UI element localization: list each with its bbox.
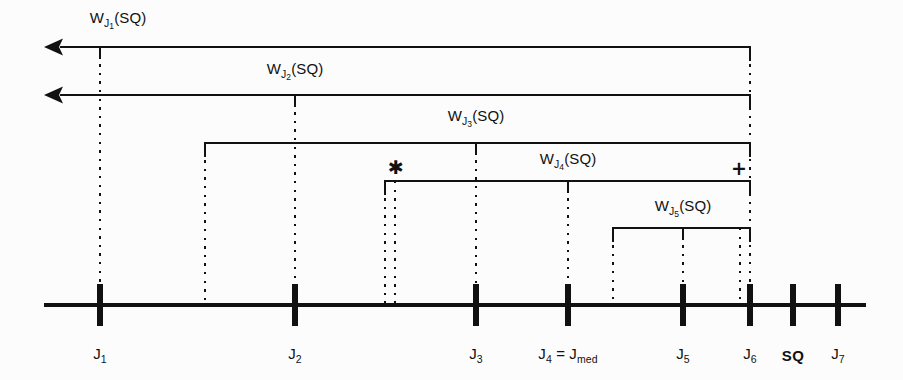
axis-label-main: J bbox=[469, 345, 477, 362]
axis-label-main: J bbox=[93, 345, 101, 362]
window-label-subscript: J5 bbox=[669, 205, 679, 217]
dotted-verticals-group bbox=[100, 47, 750, 305]
window-label-subscript: J2 bbox=[281, 68, 291, 80]
axis-label-subscript: 2 bbox=[296, 353, 302, 365]
diagram-vector-layer bbox=[0, 0, 903, 380]
window-label-w: W bbox=[655, 197, 669, 214]
window-label-w: W bbox=[540, 150, 554, 167]
axis-label-J4: J4 = Jmed bbox=[538, 345, 597, 365]
window-bracket-WJ2 bbox=[44, 87, 750, 110]
axis-label-J6: J6 bbox=[743, 345, 757, 365]
axis-label-subscript: 5 bbox=[684, 353, 690, 365]
axis-label-subscript: 1 bbox=[101, 353, 107, 365]
axis-label-main: J bbox=[831, 345, 839, 362]
window-label-WJ1: WJ1(SQ) bbox=[90, 9, 147, 31]
axis-label-subscript: 3 bbox=[477, 353, 483, 365]
window-label-WJ5: WJ5(SQ) bbox=[655, 197, 712, 219]
axis-label-SQ: SQ bbox=[782, 347, 804, 364]
window-label-WJ3: WJ3(SQ) bbox=[448, 107, 505, 129]
window-bracket-WJ5 bbox=[613, 227, 750, 242]
axis-label-extra: = J bbox=[552, 345, 577, 362]
window-label-subscript: J3 bbox=[462, 115, 472, 127]
window-label-tail: (SQ) bbox=[564, 150, 596, 167]
window-label-tail: (SQ) bbox=[291, 60, 323, 77]
axis-label-main: J bbox=[743, 345, 751, 362]
axis-label-main: J bbox=[538, 345, 546, 362]
window-label-tail: (SQ) bbox=[679, 197, 711, 214]
axis-label-main: J bbox=[676, 345, 684, 362]
asterisk-mark-icon: ✱ bbox=[388, 158, 404, 177]
window-bracket-WJ3 bbox=[205, 142, 750, 157]
window-brackets-group bbox=[44, 39, 750, 243]
axis-label-subscript: 7 bbox=[839, 353, 845, 365]
window-label-WJ4: WJ4(SQ) bbox=[540, 150, 597, 172]
plus-mark-icon: + bbox=[731, 159, 747, 178]
window-label-w: W bbox=[90, 9, 104, 26]
window-label-w: W bbox=[267, 60, 281, 77]
window-label-subscript: J4 bbox=[554, 158, 564, 170]
window-label-WJ2: WJ2(SQ) bbox=[267, 60, 324, 82]
window-bracket-WJ1 bbox=[44, 39, 750, 62]
window-label-tail: (SQ) bbox=[472, 107, 504, 124]
axis-label-extra-subscript: med bbox=[577, 353, 598, 365]
axis-label-main: SQ bbox=[782, 347, 804, 364]
axis-label-J5: J5 bbox=[676, 345, 690, 365]
diagram-canvas: WJ1(SQ)WJ2(SQ)WJ3(SQ)WJ4(SQ)WJ5(SQ) J1J2… bbox=[0, 0, 903, 380]
axis-label-J1: J1 bbox=[93, 345, 107, 365]
window-label-subscript: J1 bbox=[104, 17, 114, 29]
axis-label-main: J bbox=[288, 345, 296, 362]
axis-label-J2: J2 bbox=[288, 345, 302, 365]
axis-label-subscript: 6 bbox=[751, 353, 757, 365]
window-label-w: W bbox=[448, 107, 462, 124]
axis-label-J7: J7 bbox=[831, 345, 845, 365]
window-label-tail: (SQ) bbox=[114, 9, 146, 26]
axis-label-J3: J3 bbox=[469, 345, 483, 365]
timeline-axis-group bbox=[44, 284, 866, 326]
